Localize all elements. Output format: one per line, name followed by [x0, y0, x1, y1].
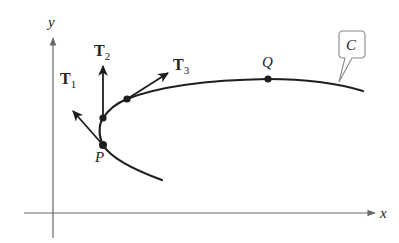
- tangent-vector-t2: T2: [94, 42, 110, 118]
- curve-label-callout: C: [339, 31, 365, 82]
- point-p-label: P: [94, 149, 104, 165]
- tangent-vector-diagram: x y C T1 T2 T3 P Q: [0, 0, 399, 243]
- t3-arrow: [127, 73, 168, 99]
- tangent-vector-t1: T1: [60, 70, 103, 145]
- tangent-vector-t3: T3: [127, 56, 190, 99]
- x-axis-label: x: [379, 205, 387, 221]
- point-q: [264, 75, 271, 82]
- t1-arrow: [73, 111, 103, 145]
- y-axis-label: y: [46, 14, 55, 30]
- curve-label: C: [346, 37, 357, 53]
- t3-label: T3: [173, 56, 190, 76]
- axes: x y: [24, 14, 387, 238]
- point-p: [99, 141, 107, 149]
- curve-c: [100, 79, 363, 180]
- point-3: [123, 95, 130, 102]
- point-q-label: Q: [262, 54, 273, 70]
- t1-label: T1: [60, 70, 76, 90]
- t2-label: T2: [94, 42, 110, 62]
- point-2: [99, 114, 106, 121]
